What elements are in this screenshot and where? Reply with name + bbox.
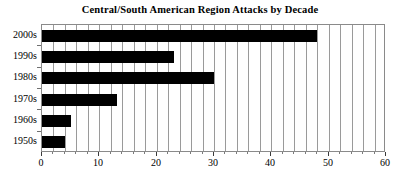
x-axis-minor-tick: [224, 152, 225, 154]
x-axis-minor-tick: [316, 152, 317, 154]
x-axis-label-30: 30: [200, 157, 226, 168]
x-axis-major-tick: [98, 152, 99, 156]
bar-band: [42, 46, 384, 67]
x-axis-major-tick: [41, 152, 42, 156]
x-axis-minor-tick: [236, 152, 237, 154]
bar-band: [42, 132, 384, 153]
chart-title: Central/South American Region Attacks by…: [0, 4, 400, 16]
x-axis-minor-tick: [282, 152, 283, 154]
x-axis-label-50: 50: [315, 157, 341, 168]
x-axis-major-tick: [270, 152, 271, 156]
x-axis-minor-tick: [305, 152, 306, 154]
bar-1950s[interactable]: [42, 136, 65, 148]
bar-chart-figure: Central/South American Region Attacks by…: [0, 0, 400, 178]
y-axis-label-1960s: 1960s: [0, 114, 37, 125]
x-axis-label-20: 20: [143, 157, 169, 168]
x-axis-minor-tick: [52, 152, 53, 154]
x-axis-label-40: 40: [257, 157, 283, 168]
x-axis-minor-tick: [121, 152, 122, 154]
bar-band: [42, 68, 384, 89]
x-axis-minor-tick: [64, 152, 65, 154]
x-axis-major-tick: [328, 152, 329, 156]
x-axis-minor-tick: [202, 152, 203, 154]
plot-area: [41, 24, 385, 152]
x-axis-minor-tick: [110, 152, 111, 154]
x-axis-minor-tick: [144, 152, 145, 154]
bar-1980s[interactable]: [42, 72, 214, 84]
x-axis-minor-tick: [179, 152, 180, 154]
y-axis-label-2000s: 2000s: [0, 29, 37, 40]
bar-2000s[interactable]: [42, 30, 317, 42]
bar-1990s[interactable]: [42, 51, 174, 63]
x-axis-minor-tick: [87, 152, 88, 154]
y-axis: 2000s1990s1980s1970s1960s1950s: [0, 24, 37, 152]
y-axis-label-1950s: 1950s: [0, 135, 37, 146]
x-axis-minor-tick: [374, 152, 375, 154]
x-axis-minor-tick: [259, 152, 260, 154]
x-axis-major-tick: [385, 152, 386, 156]
x-axis-major-tick: [213, 152, 214, 156]
x-axis-label-0: 0: [28, 157, 54, 168]
y-axis-label-1980s: 1980s: [0, 71, 37, 82]
x-axis-minor-tick: [351, 152, 352, 154]
bar-1960s[interactable]: [42, 115, 71, 127]
bar-band: [42, 25, 384, 46]
y-axis-label-1970s: 1970s: [0, 93, 37, 104]
x-axis-label-10: 10: [85, 157, 111, 168]
x-axis-minor-tick: [293, 152, 294, 154]
x-axis-minor-tick: [167, 152, 168, 154]
bar-band: [42, 89, 384, 110]
x-axis-label-60: 60: [372, 157, 398, 168]
x-axis-minor-tick: [75, 152, 76, 154]
x-axis-minor-tick: [362, 152, 363, 154]
x-axis: 0102030405060: [41, 152, 385, 178]
x-axis-minor-tick: [133, 152, 134, 154]
x-axis-major-tick: [156, 152, 157, 156]
x-axis-minor-tick: [190, 152, 191, 154]
y-axis-label-1990s: 1990s: [0, 50, 37, 61]
x-axis-minor-tick: [247, 152, 248, 154]
bar-1970s[interactable]: [42, 94, 117, 106]
bar-band: [42, 110, 384, 131]
x-axis-minor-tick: [339, 152, 340, 154]
